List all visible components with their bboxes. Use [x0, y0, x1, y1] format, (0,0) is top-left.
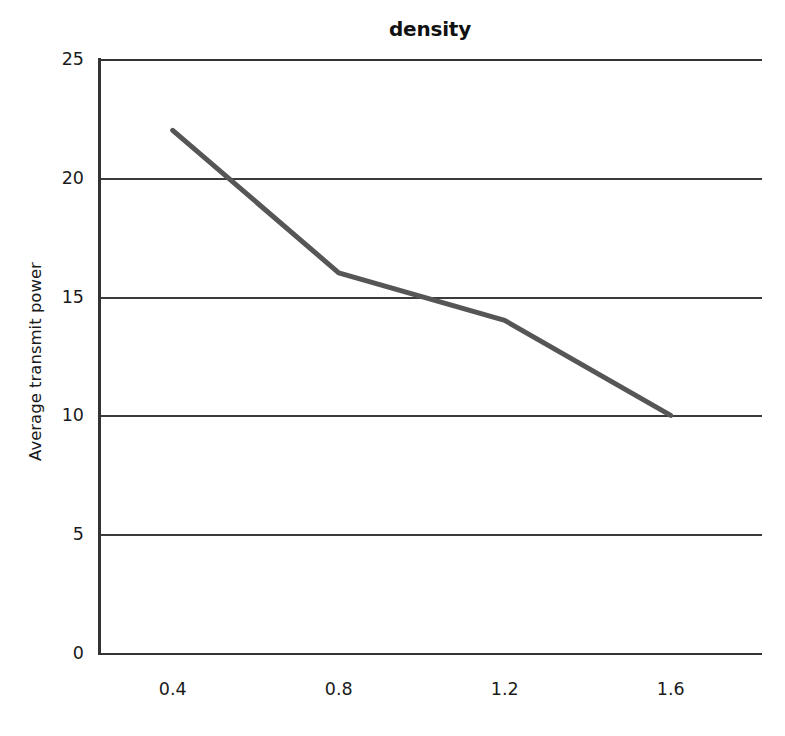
- x-tick-label-1.2: 1.2: [465, 679, 545, 699]
- gridline-y-25: [98, 59, 762, 61]
- gridline-y-15: [98, 297, 762, 299]
- chart-figure: density Average transmit power 051015202…: [0, 0, 785, 736]
- y-tick-label-25: 25: [24, 49, 84, 69]
- x-tick-label-0.8: 0.8: [299, 679, 379, 699]
- gridline-y-5: [98, 534, 762, 536]
- gridline-y-20: [98, 178, 762, 180]
- plot-area: [98, 59, 762, 653]
- y-tick-label-20: 20: [24, 168, 84, 188]
- y-tick-label-10: 10: [24, 405, 84, 425]
- y-axis-spine: [98, 58, 101, 655]
- y-axis-tick-labels: 0510152025: [14, 0, 84, 736]
- y-tick-label-5: 5: [24, 524, 84, 544]
- gridline-y-0: [98, 653, 762, 655]
- x-tick-label-0.4: 0.4: [133, 679, 213, 699]
- chart-title: density: [0, 17, 785, 41]
- y-tick-label-0: 0: [24, 643, 84, 663]
- y-tick-label-15: 15: [24, 287, 84, 307]
- x-tick-label-1.6: 1.6: [631, 679, 711, 699]
- gridline-y-10: [98, 415, 762, 417]
